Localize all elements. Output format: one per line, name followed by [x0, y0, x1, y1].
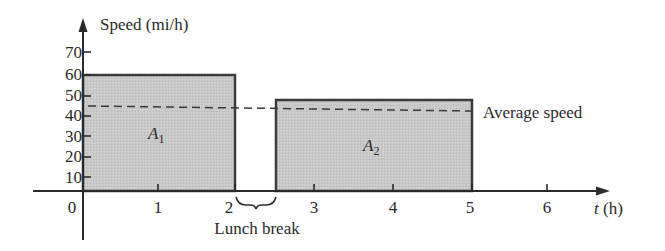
y-axis-title: Speed (mi/h): [100, 15, 188, 34]
x-tick-0: 0: [68, 198, 77, 217]
y-tick-20: 20: [65, 147, 82, 166]
speed-time-chart: 70 60 50 40 30 20 10 0 1 2 3 4 5 6 Speed…: [0, 0, 665, 251]
x-tick-5: 5: [466, 198, 475, 217]
x-tick-4: 4: [389, 198, 398, 217]
x-tick-1: 1: [154, 198, 163, 217]
y-tick-70: 70: [65, 43, 82, 62]
lunch-break-brace-icon: [236, 197, 276, 209]
y-tick-60: 60: [65, 65, 82, 84]
lunch-break-label: Lunch break: [214, 219, 300, 238]
y-tick-40: 40: [65, 106, 82, 125]
x-tick-labels: 0 1 2 3 4 5 6: [68, 198, 552, 217]
y-tick-30: 30: [65, 127, 82, 146]
x-tick-3: 3: [310, 198, 319, 217]
x-axis-title: t (h): [594, 199, 623, 218]
x-axis-arrow-icon: [596, 187, 610, 196]
y-tick-50: 50: [65, 86, 82, 105]
y-tick-labels: 70 60 50 40 30 20 10: [65, 43, 82, 187]
y-tick-10: 10: [65, 168, 82, 187]
x-tick-6: 6: [543, 198, 552, 217]
y-axis-arrow-icon: [79, 18, 88, 32]
average-speed-label: Average speed: [483, 103, 583, 122]
x-tick-2: 2: [225, 198, 234, 217]
